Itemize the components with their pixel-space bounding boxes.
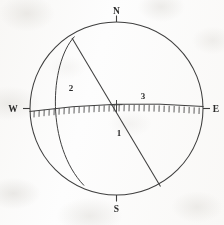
stereonet-figure: N S W E 1 2 3 bbox=[0, 0, 224, 225]
label-feature-3: 3 bbox=[141, 91, 146, 101]
great-circle-2-arc bbox=[55, 37, 84, 186]
label-west: W bbox=[8, 104, 18, 114]
label-feature-1: 1 bbox=[117, 128, 122, 138]
label-east: E bbox=[213, 104, 219, 114]
label-feature-2: 2 bbox=[69, 83, 74, 93]
label-south: S bbox=[114, 204, 119, 214]
stereonet-canvas: N S W E 1 2 3 bbox=[0, 0, 224, 225]
label-north: N bbox=[113, 6, 120, 16]
